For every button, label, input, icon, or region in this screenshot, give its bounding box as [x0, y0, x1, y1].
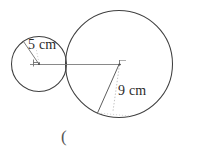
large-circle-radius-label: 9 cm [118, 84, 146, 98]
geometry-canvas [0, 0, 212, 155]
large-radius-line [98, 65, 120, 114]
small-circle-radius-label: 5 cm [28, 38, 56, 52]
geometry-figure: 5 cm 9 cm ( [0, 0, 212, 155]
stray-parenthesis-text: ( [61, 128, 67, 145]
large-circle-center-marker [118, 60, 126, 66]
